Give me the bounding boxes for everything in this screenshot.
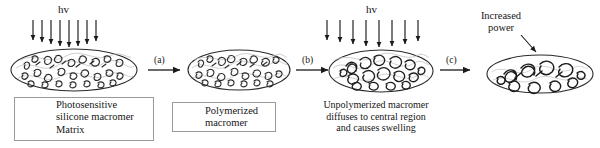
increased-power-label: Increased power [470,10,532,34]
increased-power-leader [521,35,536,52]
legend-secondary-line1: Polymerized [205,105,275,117]
diffusion-caption-line1: Unpolymerized macromer [291,99,461,111]
diffusion-caption-line3: and causes swelling [291,122,461,134]
legend-secondary-line2: macromer [205,117,275,129]
hv-label-left: hv [58,4,69,16]
hv-label-right: hv [366,4,377,16]
legend-secondary-text: Polymerized macromer [205,105,275,130]
legend-primary-line1: Photosensitive [56,99,152,111]
step-label-a: (a) [154,55,165,65]
increased-power-line1: Increased [470,10,532,22]
legend-primary-line3: Matrix [56,124,152,136]
sample-1-graphic [11,49,137,91]
step-label-c: (c) [446,55,457,65]
sample-2-graphic [188,50,290,90]
hv-arrows-left [33,20,96,47]
sample-4-graphic [487,55,593,93]
sample-3-graphic [329,50,433,92]
increased-power-line2: power [470,22,532,34]
hv-arrows-right [327,20,418,47]
diffusion-caption-line2: diffuses to central region [291,111,461,123]
legend-primary-text: Photosensitive silicone macromer Matrix [56,99,152,136]
diffusion-caption: Unpolymerized macromer diffuses to centr… [291,99,461,134]
legend-primary-line2: silicone macromer [56,111,152,123]
step-label-b: (b) [302,55,313,65]
figure-canvas: hv hv (a) (b) (c) Increased power Unpoly… [0,0,600,148]
